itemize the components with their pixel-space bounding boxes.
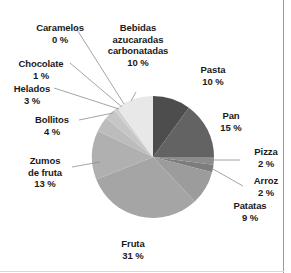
figure-right-border xyxy=(283,0,284,273)
slice-label-pasta-value: 10 % xyxy=(183,76,243,88)
slice-label-bebidas-value: 10 % xyxy=(97,57,179,69)
slice-label-helados: Helados 3 % xyxy=(2,83,62,106)
slice-label-pasta: Pasta 10 % xyxy=(183,64,243,87)
slice-label-caramelos: Caramelos 0 % xyxy=(24,22,96,45)
slice-label-pan-value: 15 % xyxy=(206,122,256,134)
slice-label-patatas-value: 9 % xyxy=(221,212,279,224)
slice-label-zumos-line2: de fruta xyxy=(12,167,78,179)
slice-label-caramelos-value: 0 % xyxy=(24,34,96,46)
slice-label-helados-value: 3 % xyxy=(2,95,62,107)
slice-label-bebidas-line2: azucaradas xyxy=(97,34,179,46)
slice-label-bebidas-line3: carbonatadas xyxy=(97,45,179,57)
leader-line-arroz xyxy=(213,169,243,186)
pie-slices xyxy=(92,96,214,218)
slice-label-patatas-name: Patatas xyxy=(221,200,279,212)
slice-label-pan-name: Pan xyxy=(206,110,256,122)
slice-label-helados-name: Helados xyxy=(2,83,62,95)
slice-label-bollitos: Bollitos 4 % xyxy=(22,114,82,137)
slice-label-bebidas: Bebidas azucaradas carbonatadas 10 % xyxy=(97,22,179,68)
slice-label-fruta: Fruta 31 % xyxy=(105,238,161,261)
slice-label-zumos-line1: Zumos xyxy=(12,155,78,167)
slice-label-fruta-name: Fruta xyxy=(105,238,161,250)
slice-label-chocolate: Chocolate 1 % xyxy=(7,58,75,81)
slice-label-pasta-name: Pasta xyxy=(183,64,243,76)
pie-chart-figure: Caramelos 0 % Bebidas azucaradas carbona… xyxy=(0,0,291,273)
slice-label-bollitos-value: 4 % xyxy=(22,126,82,138)
figure-bottom-border xyxy=(0,271,284,272)
slice-label-chocolate-name: Chocolate xyxy=(7,58,75,70)
slice-label-zumos: Zumos de fruta 13 % xyxy=(12,155,78,190)
leader-line-helados xyxy=(54,88,119,109)
slice-label-caramelos-name: Caramelos xyxy=(24,22,96,34)
slice-label-bebidas-line1: Bebidas xyxy=(97,22,179,34)
slice-label-zumos-value: 13 % xyxy=(12,178,78,190)
slice-label-chocolate-value: 1 % xyxy=(7,70,75,82)
slice-label-fruta-value: 31 % xyxy=(105,250,161,262)
slice-label-pan: Pan 15 % xyxy=(206,110,256,133)
slice-label-bollitos-name: Bollitos xyxy=(22,114,82,126)
slice-label-patatas: Patatas 9 % xyxy=(221,200,279,223)
leader-line-chocolate xyxy=(70,63,122,107)
